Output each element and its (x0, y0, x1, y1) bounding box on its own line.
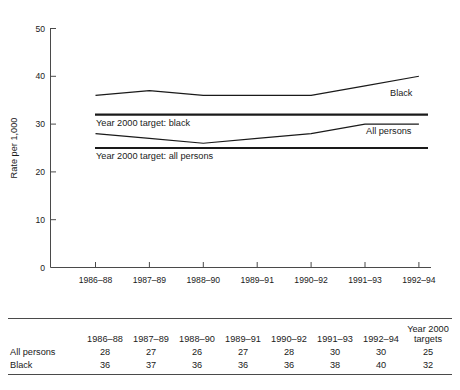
table-cell: 30 (312, 347, 358, 359)
table-header-col-3: 1988–90 (174, 324, 220, 347)
table-cell: 28 (82, 347, 128, 359)
table-row: Black 36 37 36 36 36 38 40 32 (8, 359, 452, 371)
line-chart: Rate per 1,000 50 40 30 20 10 0 (0, 0, 460, 300)
table-header-rowlabel (8, 324, 82, 347)
table-cell: 37 (128, 359, 174, 371)
table-header-col-7: 1992–94 (358, 324, 404, 347)
y-tick-label-50: 50 (35, 24, 45, 34)
table-cell: 27 (128, 347, 174, 359)
y-tick-label-30: 30 (35, 119, 45, 129)
table-header-targets-line1: Year 2000 (404, 324, 452, 334)
table-header-col-2: 1987–89 (128, 324, 174, 347)
y-tick-label-40: 40 (35, 71, 45, 81)
table-header-col-targets: Year 2000 targets (404, 324, 452, 347)
table-cell: 36 (174, 359, 220, 371)
x-tick-label-2: 1987–89 (133, 275, 167, 285)
y-tick-label-20: 20 (35, 167, 45, 177)
table-header-col-5: 1990–92 (266, 324, 312, 347)
figure-chart-and-table: Rate per 1,000 50 40 30 20 10 0 (0, 0, 460, 390)
table-cell: 38 (312, 359, 358, 371)
table-cell: 30 (358, 347, 404, 359)
table-header-col-6: 1991–93 (312, 324, 358, 347)
y-tick-label-0: 0 (40, 263, 45, 273)
table-cell-target: 25 (404, 347, 452, 359)
data-table: 1986–88 1987–89 1988–90 1989–91 1990–92 … (8, 324, 452, 371)
x-tick-label-6: 1991–93 (348, 275, 382, 285)
table-header-col-1: 1986–88 (82, 324, 128, 347)
series-label-all-persons: All persons (366, 126, 412, 136)
table-header-col-4: 1989–91 (220, 324, 266, 347)
table-cell: 36 (82, 359, 128, 371)
y-axis-ticks (51, 29, 57, 220)
y-axis-title: Rate per 1,000 (9, 118, 19, 179)
table-body: All persons 28 27 26 27 28 30 30 25 Blac… (8, 347, 452, 372)
x-tick-label-5: 1990–92 (294, 275, 328, 285)
x-axis-ticks (96, 262, 419, 268)
table-header-targets-line2: targets (404, 334, 452, 344)
table-row-label-all-persons: All persons (8, 347, 82, 359)
x-tick-label-7: 1992–94 (402, 275, 436, 285)
table-cell: 36 (220, 359, 266, 371)
chart-canvas: Rate per 1,000 50 40 30 20 10 0 (0, 0, 460, 300)
table-cell-target: 32 (404, 359, 452, 371)
table-row-label-black: Black (8, 359, 82, 371)
x-tick-label-4: 1989–91 (240, 275, 274, 285)
table-row: All persons 28 27 26 27 28 30 30 25 (8, 347, 452, 359)
y-tick-label-10: 10 (35, 215, 45, 225)
target-label-black: Year 2000 target: black (96, 118, 191, 128)
table-cell: 40 (358, 359, 404, 371)
y-axis-tick-labels: 50 40 30 20 10 0 (35, 24, 45, 273)
x-tick-label-1: 1986–88 (79, 275, 113, 285)
series-line-black (96, 76, 419, 95)
x-tick-label-3: 1988–90 (187, 275, 221, 285)
series-label-black: Black (390, 88, 413, 98)
target-label-all-persons: Year 2000 target: all persons (96, 151, 214, 161)
table-rule-bottom (8, 374, 452, 375)
table-cell: 36 (266, 359, 312, 371)
data-table-wrapper: 1986–88 1987–89 1988–90 1989–91 1990–92 … (8, 318, 452, 375)
x-axis-tick-labels: 1986–88 1987–89 1988–90 1989–91 1990–92 … (79, 275, 436, 285)
table-cell: 27 (220, 347, 266, 359)
table-cell: 26 (174, 347, 220, 359)
table-head: 1986–88 1987–89 1988–90 1989–91 1990–92 … (8, 324, 452, 347)
table-cell: 28 (266, 347, 312, 359)
table-header-row: 1986–88 1987–89 1988–90 1989–91 1990–92 … (8, 324, 452, 347)
